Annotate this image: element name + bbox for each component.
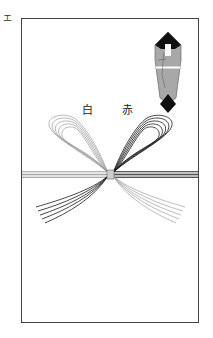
noshi-icon bbox=[155, 32, 181, 113]
left-tails-red bbox=[36, 176, 108, 223]
right-loop-red bbox=[113, 115, 172, 173]
right-tails-white bbox=[113, 176, 185, 223]
knot bbox=[107, 170, 114, 179]
left-loop-white bbox=[49, 115, 108, 173]
horizontal-cords-red bbox=[114, 172, 199, 178]
mizuhiki-illustration bbox=[0, 0, 213, 338]
red-label: 赤 bbox=[122, 105, 133, 116]
white-label: 白 bbox=[82, 105, 93, 116]
horizontal-cords-white bbox=[22, 172, 108, 178]
